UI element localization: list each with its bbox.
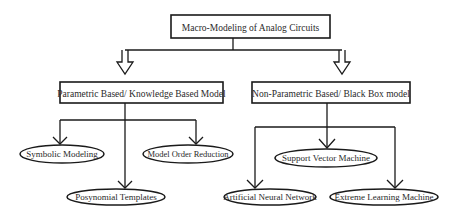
non-parametric-label: Non-Parametric Based/ Black Box model <box>252 89 410 99</box>
support-vector-machine-label: Support Vector Machine <box>282 153 370 163</box>
hollow-arrow-right <box>334 50 350 74</box>
parametric-label: Parametric Based/ Knowledge Based Model <box>57 89 226 99</box>
root-label: Macro-Modeling of Analog Circuits <box>182 23 320 33</box>
posynomial-templates-label: Posynomial Templates <box>75 192 157 202</box>
artificial-neural-network-label: Artificial Neural Network <box>223 192 317 202</box>
hollow-arrow-left <box>117 50 133 74</box>
extreme-learning-machine-label: Extreme Learning Machine <box>335 192 434 202</box>
model-order-reduction-label: Model Order Reduction <box>147 149 229 159</box>
diagram-canvas: Macro-Modeling of Analog Circuits Parame… <box>0 0 459 217</box>
symbolic-modeling-label: Symbolic Modeling <box>26 149 98 159</box>
